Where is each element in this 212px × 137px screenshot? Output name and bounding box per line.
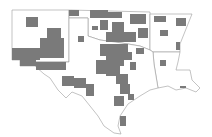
region-map xyxy=(0,0,212,137)
state-louisiana xyxy=(153,52,200,92)
